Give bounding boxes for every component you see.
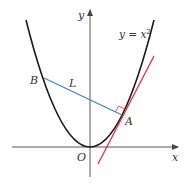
point-a-label: A — [124, 115, 133, 128]
tangent-line — [98, 56, 154, 164]
parabola-figure: y x O B A L y = x2 — [0, 0, 187, 183]
diagram-canvas: y x O B A L y = x2 — [0, 0, 187, 183]
point-b-label: B — [29, 74, 38, 87]
y-axis-label: y — [77, 9, 85, 22]
segment-l-label: L — [68, 77, 76, 90]
x-axis-label: x — [172, 151, 179, 164]
curve-equation-label: y = x2 — [118, 28, 151, 40]
origin-label: O — [77, 151, 86, 164]
